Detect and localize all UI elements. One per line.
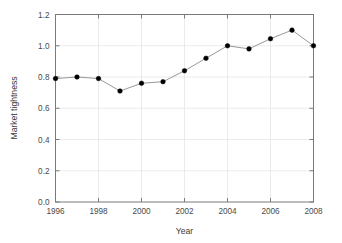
- y-tick-label: 0.6: [38, 104, 50, 113]
- y-tick-label: 1.0: [38, 42, 50, 51]
- x-tick-label: 1996: [46, 207, 65, 216]
- x-tick-label: 2000: [132, 207, 151, 216]
- y-tick-label: 0.2: [38, 167, 50, 176]
- data-point-marker: [311, 43, 316, 48]
- x-axis-title: Year: [176, 226, 194, 236]
- y-tick-label: 0.4: [38, 136, 50, 145]
- y-tick-label: 0.8: [38, 73, 50, 82]
- data-point-marker: [96, 76, 101, 81]
- data-point-marker: [290, 28, 295, 33]
- market-tightness-line-chart: 0.00.20.40.60.81.01.2 199619982000200220…: [0, 0, 342, 243]
- y-tick-label: 1.2: [38, 11, 50, 20]
- data-point-marker: [204, 56, 209, 61]
- x-tick-label: 2006: [261, 207, 280, 216]
- data-point-marker: [182, 68, 187, 73]
- data-point-marker: [118, 89, 123, 94]
- y-tick-label: 0.0: [38, 198, 50, 207]
- data-point-marker: [139, 81, 144, 86]
- x-tick-label: 2008: [304, 207, 323, 216]
- data-point-marker: [268, 36, 273, 41]
- x-tick-label: 2002: [175, 207, 194, 216]
- data-point-marker: [247, 47, 252, 52]
- y-axis-title: Market tightness: [9, 76, 19, 139]
- x-tick-label: 2004: [218, 207, 237, 216]
- x-tick-label: 1998: [89, 207, 108, 216]
- data-point-marker: [161, 79, 166, 84]
- chart-figure: 0.00.20.40.60.81.01.2 199619982000200220…: [0, 0, 342, 243]
- data-point-marker: [225, 43, 230, 48]
- data-point-marker: [75, 75, 80, 80]
- data-point-marker: [53, 76, 58, 81]
